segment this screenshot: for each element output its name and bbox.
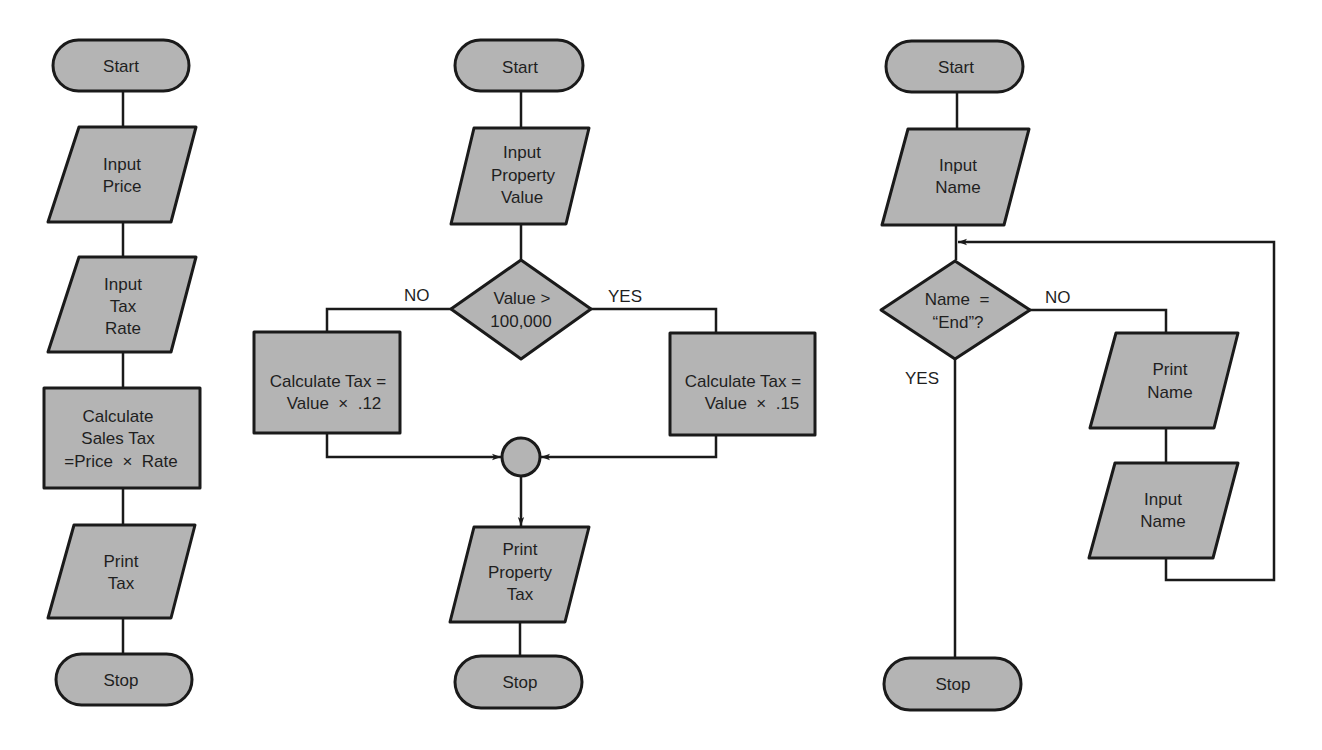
io-print-property-tax: Print Property Tax xyxy=(450,527,589,622)
branch-label-no: NO xyxy=(1045,288,1071,307)
io-print-tax: Print Tax xyxy=(48,525,195,618)
node-label: Print xyxy=(503,540,538,559)
node-label: Name xyxy=(1147,383,1192,402)
flowchart-name-loop: Start Input Name Name = “End”? NO YES Pr… xyxy=(881,41,1274,710)
node-label: Calculate xyxy=(83,407,154,426)
terminal-stop: Stop xyxy=(455,656,582,708)
node-label: Tax xyxy=(108,574,135,593)
io-input-name-2: Input Name xyxy=(1089,463,1238,558)
node-label: Input xyxy=(103,155,141,174)
node-label: Input xyxy=(1144,490,1182,509)
branch-label-no: NO xyxy=(404,286,430,305)
node-label: Name xyxy=(1140,512,1185,531)
node-label: Input xyxy=(503,143,541,162)
process-calculate-tax-12: Calculate Tax = Value × .12 xyxy=(254,332,400,433)
io-input-tax-rate: Input Tax Rate xyxy=(48,257,196,352)
node-label: Sales Tax xyxy=(81,429,155,448)
yes-branch-line xyxy=(591,309,716,333)
terminal-start: Start xyxy=(455,40,583,91)
node-label: Value xyxy=(501,188,543,207)
node-label: Name = xyxy=(925,290,990,309)
merge-arrow-left xyxy=(327,433,501,457)
node-label: Input xyxy=(104,275,142,294)
terminal-stop: Stop xyxy=(56,654,192,705)
node-label: Name xyxy=(935,178,980,197)
node-label: Calculate Tax = xyxy=(685,372,801,391)
node-label: Value × .15 xyxy=(705,394,800,413)
decision-value-gt-100000: Value > 100,000 xyxy=(451,260,591,359)
node-label: 100,000 xyxy=(490,312,551,331)
terminal-start: Start xyxy=(886,41,1023,92)
decision-name-equals-end: Name = “End”? xyxy=(881,261,1030,359)
no-branch-line xyxy=(327,309,451,332)
node-label: Value × .12 xyxy=(287,394,382,413)
node-label: Price xyxy=(103,177,142,196)
branch-label-yes: YES xyxy=(905,369,939,388)
node-label: Calculate Tax = xyxy=(270,372,386,391)
node-label: Start xyxy=(103,57,139,76)
terminal-start: Start xyxy=(53,40,189,91)
merge-arrow-right xyxy=(541,435,716,457)
process-calculate-tax-15: Calculate Tax = Value × .15 xyxy=(670,333,815,435)
io-input-property-value: Input Property Value xyxy=(451,128,589,224)
node-label: Print xyxy=(104,552,139,571)
flowchart-sales-tax: Start Input Price Input Tax Rate Calcula… xyxy=(44,40,200,705)
connector-node xyxy=(502,438,540,476)
node-label: Stop xyxy=(104,671,139,690)
io-input-price: Input Price xyxy=(48,127,196,222)
node-label: Start xyxy=(502,58,538,77)
node-label: Stop xyxy=(503,673,538,692)
node-label: Value > xyxy=(494,289,551,308)
node-label: “End”? xyxy=(932,313,983,332)
no-branch-line xyxy=(1030,310,1166,333)
flowchart-canvas: Start Input Price Input Tax Rate Calcula… xyxy=(0,0,1322,750)
process-calculate-sales-tax: Calculate Sales Tax =Price × Rate xyxy=(44,388,200,488)
flowchart-property-tax: Start Input Property Value Value > 100,0… xyxy=(254,40,815,708)
node-label: Tax xyxy=(507,585,534,604)
node-label: Tax xyxy=(110,297,137,316)
terminal-stop: Stop xyxy=(884,658,1021,710)
io-print-name: Print Name xyxy=(1090,333,1238,428)
node-label: Rate xyxy=(105,319,141,338)
node-label: Input xyxy=(939,156,977,175)
node-label: Start xyxy=(938,58,974,77)
branch-label-yes: YES xyxy=(608,287,642,306)
node-label: Property xyxy=(488,563,553,582)
node-label: Property xyxy=(491,166,556,185)
io-input-name: Input Name xyxy=(882,129,1029,225)
node-label: =Price × Rate xyxy=(64,452,177,471)
node-label: Print xyxy=(1153,360,1188,379)
node-label: Stop xyxy=(936,675,971,694)
